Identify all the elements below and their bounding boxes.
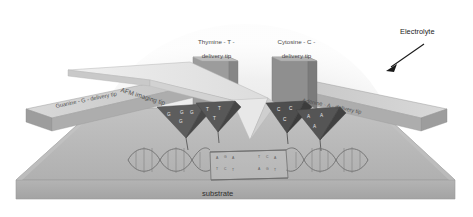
tip-letter: A	[307, 114, 310, 119]
tip-letter: G	[190, 110, 194, 115]
electrolyte-arrow	[386, 44, 424, 72]
bubble-base: G	[266, 167, 269, 171]
dna-afm-diagram: Thymine - T - delivery tip Cytosine - C …	[0, 0, 473, 217]
tip-letter: T	[206, 107, 209, 112]
bubble-base: A	[258, 167, 260, 171]
bubble-base: T	[258, 155, 260, 159]
substrate-label: substrate	[202, 190, 233, 199]
thymine-tip-label-line1: Thymine - T -	[198, 38, 235, 45]
cytosine-tip-label: Cytosine - C - delivery tip	[263, 31, 323, 67]
cytosine-tip-label-line1: Cytosine - C -	[278, 38, 316, 45]
bubble-base: A	[274, 156, 276, 160]
dna-bubble-region	[210, 150, 288, 180]
tip-letter: C	[289, 106, 292, 111]
bubble-base: T	[232, 168, 234, 172]
bubble-base: T	[274, 168, 276, 172]
bubble-base: C	[266, 155, 268, 159]
bubble-base: C	[224, 167, 226, 171]
tip-letter: T	[218, 106, 221, 111]
bubble-base: A	[232, 156, 234, 160]
electrolyte-label: Electrolyte	[400, 28, 435, 37]
bubble-base: T	[216, 167, 218, 171]
tip-letter: G	[180, 110, 184, 115]
bubble-base: A	[216, 156, 218, 160]
tip-letter: G	[167, 112, 171, 117]
tip-letter: T	[213, 116, 216, 121]
thymine-tip-label-line2: delivery tip	[202, 52, 232, 59]
bubble-base: G	[224, 155, 227, 159]
tip-letter: A	[320, 113, 323, 118]
tip-letter: G	[179, 119, 183, 124]
tip-letter: C	[277, 107, 280, 112]
thymine-tip-label: Thymine - T - delivery tip	[183, 31, 243, 67]
tip-letter: A	[313, 124, 316, 129]
cytosine-tip-label-line2: delivery tip	[282, 52, 312, 59]
tip-letter: C	[283, 117, 286, 122]
